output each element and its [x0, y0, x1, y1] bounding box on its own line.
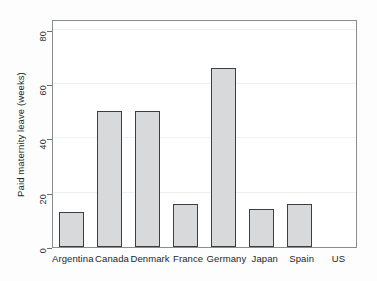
bar-slot [129, 21, 167, 247]
y-axis: 020406080 [0, 20, 52, 249]
bar-slot [205, 21, 243, 247]
bar-slot [53, 21, 91, 247]
x-tick-label: Spain [283, 249, 320, 271]
bar-slot [167, 21, 205, 247]
x-tick-label: Canada [94, 249, 131, 271]
bar-series [53, 21, 356, 247]
x-tick-label: Denmark [130, 249, 169, 271]
bar [211, 68, 236, 247]
bar-slot [280, 21, 318, 247]
bar [249, 209, 274, 247]
y-tick-label: 20 [38, 194, 48, 204]
chart-figure: Paid maternity leave (weeks) 020406080 A… [0, 0, 377, 281]
x-tick-label: Japan [246, 249, 283, 271]
x-axis: ArgentinaCanadaDenmarkFranceGermanyJapan… [52, 249, 357, 271]
x-tick-label: Germany [207, 249, 247, 271]
y-tick-label: 80 [38, 31, 48, 41]
bar-slot [91, 21, 129, 247]
plot-area [52, 20, 357, 248]
bar [59, 212, 84, 247]
y-tick-label: 0 [38, 248, 48, 253]
bar-slot [242, 21, 280, 247]
bar-slot [318, 21, 356, 247]
bar [97, 111, 122, 247]
x-tick-label: Argentina [52, 249, 94, 271]
y-tick-label: 40 [38, 139, 48, 149]
x-tick-label: France [170, 249, 207, 271]
bar [173, 204, 198, 247]
y-tick-label: 60 [38, 85, 48, 95]
x-tick-label: US [320, 249, 357, 271]
bar [135, 111, 160, 247]
bar [287, 204, 312, 247]
